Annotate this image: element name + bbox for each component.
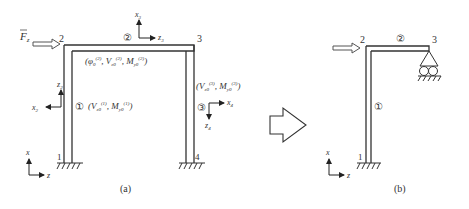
hollow-right-arrow-icon <box>270 108 306 142</box>
local-axes-2 <box>46 90 61 107</box>
load-arrow-b-icon <box>333 43 360 53</box>
node-label-1-b: 1 <box>358 152 363 162</box>
roller-support-node-3 <box>418 51 441 81</box>
beam-member-2 <box>64 45 194 51</box>
node-label-3-b: 3 <box>432 34 437 45</box>
load-arrow-icon <box>33 39 60 49</box>
member-label-2-b: ② <box>396 33 405 44</box>
member-3-unknowns: (Vz0(3), My0(3)) <box>196 81 240 92</box>
node-label-2: 2 <box>59 33 64 44</box>
global-axis-x-b: x <box>325 148 330 157</box>
node-label-4: 4 <box>195 152 200 162</box>
global-axis-z-b: z <box>346 171 351 180</box>
node-label-2-b: 2 <box>360 34 365 45</box>
axis-z2: z2 <box>56 80 63 90</box>
axis-x4: x4 <box>226 98 234 108</box>
column-member-1-b <box>366 46 371 163</box>
member-label-2: ② <box>123 32 132 43</box>
axis-z4: z4 <box>204 121 211 131</box>
fixed-support-node-4 <box>179 163 205 169</box>
global-axis-x-a: x <box>25 148 30 157</box>
member-label-1-b: ① <box>374 101 383 112</box>
axis-z3: z3 <box>157 33 164 43</box>
column-member-3 <box>186 45 194 163</box>
global-axis-z-a: z <box>46 171 51 180</box>
local-axes-4 <box>209 103 224 119</box>
fixed-support-node-1-b <box>357 163 381 169</box>
node-label-3: 3 <box>197 33 202 44</box>
member-label-1: ① <box>75 101 84 112</box>
beam-member-2-b <box>366 46 429 51</box>
node-label-1: 1 <box>57 152 62 162</box>
axis-x2: x2 <box>31 103 39 113</box>
fixed-support-node-1 <box>57 163 83 169</box>
global-axes-a <box>29 159 44 175</box>
member-1-unknowns: (Vz0(1), My0(1)) <box>88 101 132 112</box>
load-label: Fz <box>19 30 30 44</box>
diagram-canvas: Fz 2 3 1 4 ② x3 z3 (φ0(2), Vz0(2), My0(2… <box>0 0 469 209</box>
caption-a: (a) <box>120 183 131 195</box>
caption-b: (b) <box>394 183 406 195</box>
member-label-3: ③ <box>197 102 206 113</box>
member-2-unknowns: (φ0(2), Vz0(2), My0(2)) <box>85 56 147 67</box>
column-member-1 <box>64 45 72 163</box>
local-axes-3 <box>139 20 155 38</box>
axis-x3: x3 <box>134 10 142 20</box>
global-axes-b <box>329 159 344 175</box>
